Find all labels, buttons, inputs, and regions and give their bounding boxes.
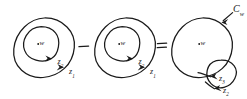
label-contour-inner-left: z2 — [58, 58, 64, 66]
label-c-sub: w — [240, 10, 244, 17]
contour-figure: w z2 z1 − w z2 z1 = w Cw z3 z2 — [0, 0, 247, 99]
figure-canvas — [0, 0, 247, 99]
label-center-w-right: w — [201, 40, 206, 47]
label-contour-inner-middle: z2 — [139, 58, 145, 66]
label-contour-small-right: z3 — [219, 75, 225, 83]
connector-stroke-right — [198, 73, 211, 77]
label-center-w-middle: w — [121, 40, 126, 47]
panel-right — [172, 13, 237, 92]
label-contour-outer-left: z1 — [69, 68, 75, 76]
label-z-sub-small-right: 3 — [222, 79, 225, 85]
label-contour-small-outer-right: z2 — [223, 87, 229, 95]
contour-big-right — [172, 18, 233, 78]
label-z-sub-outer-middle: 1 — [153, 73, 156, 79]
label-contour-cw: Cw — [233, 4, 244, 14]
panel-left — [14, 18, 75, 78]
label-z-sub-inner-middle: 2 — [142, 63, 145, 69]
label-c-text: C — [233, 3, 240, 14]
label-z-sub-inner-left: 2 — [61, 63, 64, 69]
label-contour-outer-middle: z1 — [150, 68, 156, 76]
label-z-sub-outer-left: 1 — [72, 73, 75, 79]
label-z-sub-small-outer-right: 2 — [226, 91, 229, 97]
pointer-arrow-cw — [223, 13, 232, 21]
label-center-w-left: w — [40, 40, 45, 47]
panel-middle — [95, 18, 156, 78]
